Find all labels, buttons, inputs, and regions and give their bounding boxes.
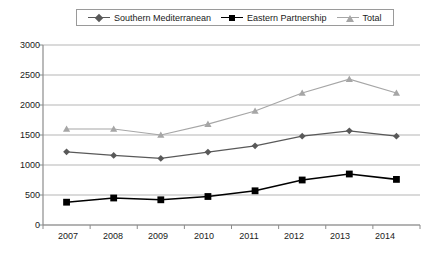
y-tick-label: 0 (8, 221, 40, 230)
data-point-diamond (346, 127, 353, 134)
data-point-diamond (157, 155, 164, 162)
y-tick-label: 3000 (8, 41, 40, 50)
x-tick-label: 2009 (138, 232, 178, 241)
series-southern-mediterranean (63, 127, 400, 161)
x-tick-label: 2008 (93, 232, 133, 241)
data-point-square (205, 193, 212, 200)
x-tick-label: 2011 (229, 232, 269, 241)
data-point-triangle (346, 76, 353, 82)
y-tick-label: 1500 (8, 131, 40, 140)
line-chart: Southern Mediterranean Eastern Partnersh… (0, 0, 436, 256)
data-point-diamond (110, 152, 117, 159)
data-point-square (299, 177, 306, 184)
series-eastern-partnership (63, 171, 400, 206)
data-point-square (63, 199, 70, 206)
data-point-square (252, 187, 259, 194)
x-tick-label: 2012 (274, 232, 314, 241)
data-point-square (393, 176, 400, 183)
data-point-diamond (299, 133, 306, 140)
data-point-square (110, 195, 117, 202)
x-tick-label: 2013 (320, 232, 360, 241)
x-tick-label: 2007 (48, 232, 88, 241)
y-tick-label: 1000 (8, 161, 40, 170)
data-point-diamond (393, 133, 400, 140)
plot-area (0, 0, 436, 256)
data-point-square (346, 171, 353, 178)
data-point-square (157, 196, 164, 203)
data-point-diamond (205, 149, 212, 156)
series-line (67, 79, 397, 135)
x-tick-label: 2010 (184, 232, 224, 241)
x-tick-label: 2014 (365, 232, 405, 241)
y-tick-label: 500 (8, 191, 40, 200)
data-point-diamond (252, 142, 259, 149)
data-point-diamond (63, 148, 70, 155)
y-tick-label: 2000 (8, 101, 40, 110)
y-tick-label: 2500 (8, 71, 40, 80)
